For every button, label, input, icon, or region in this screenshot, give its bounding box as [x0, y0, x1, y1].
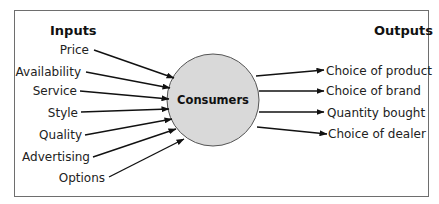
output-label-choice-of-dealer: Choice of dealer	[328, 127, 426, 141]
input-label-advertising: Advertising	[22, 150, 90, 164]
center-label: Consumers	[168, 93, 258, 107]
output-label-choice-of-product: Choice of product	[326, 64, 432, 78]
input-label-options: Options	[59, 171, 105, 185]
arrow-options	[109, 139, 184, 177]
input-label-quality: Quality	[39, 128, 82, 142]
arrow-availability	[86, 72, 170, 88]
arrow-quality	[85, 119, 172, 135]
arrow-style	[81, 109, 169, 112]
arrow-advertising	[93, 129, 176, 157]
arrow-choice-of-product	[256, 70, 324, 76]
outputs-heading: Outputs	[374, 23, 433, 38]
arrow-service	[80, 91, 169, 99]
input-label-service: Service	[33, 84, 77, 98]
arrow-price	[94, 50, 174, 78]
input-label-style: Style	[48, 106, 78, 120]
arrow-choice-of-dealer	[257, 127, 327, 134]
output-label-quantity-bought: Quantity bought	[327, 106, 425, 120]
inputs-heading: Inputs	[50, 23, 97, 38]
input-label-price: Price	[60, 43, 89, 57]
input-label-availability: Availability	[16, 65, 81, 79]
output-label-choice-of-brand: Choice of brand	[326, 84, 421, 98]
